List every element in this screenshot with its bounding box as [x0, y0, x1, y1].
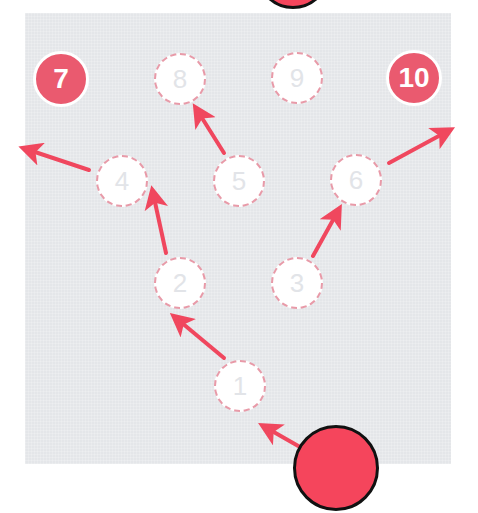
arrow-from-2 [153, 193, 166, 253]
arrow-from-4 [26, 149, 89, 170]
arrow-from-6 [389, 131, 448, 163]
node-label: 4 [115, 166, 129, 197]
arrow-from-5 [197, 110, 224, 153]
node-label: 1 [233, 371, 247, 402]
node-label: 6 [349, 165, 363, 196]
node-9: 9 [271, 52, 323, 104]
node-label: 8 [173, 64, 187, 95]
diagram-canvas: 12345678910 [0, 0, 478, 513]
node-2: 2 [154, 257, 206, 309]
node-label: 2 [173, 268, 187, 299]
node-7: 7 [33, 51, 89, 107]
node-label: 10 [398, 62, 429, 94]
node-6: 6 [330, 154, 382, 206]
node-3: 3 [271, 257, 323, 309]
arrow-from-1 [176, 318, 224, 358]
node-label: 5 [232, 166, 246, 197]
node-10: 10 [386, 50, 442, 106]
current-ball [293, 425, 379, 511]
node-label: 7 [53, 63, 69, 95]
node-4: 4 [96, 155, 148, 207]
node-5: 5 [213, 155, 265, 207]
node-8: 8 [154, 53, 206, 105]
arrow-from-3 [313, 211, 338, 256]
node-label: 3 [290, 268, 304, 299]
node-label: 9 [290, 63, 304, 94]
arrow-from-ball [265, 427, 300, 447]
node-1: 1 [214, 360, 266, 412]
